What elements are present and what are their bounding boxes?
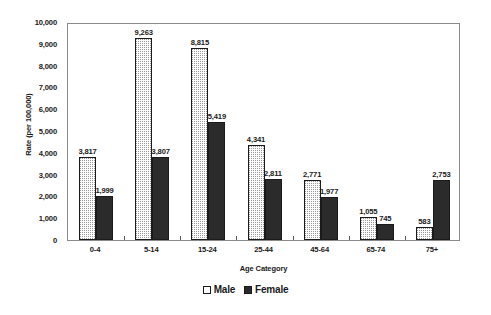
bar-value-label: 3,807 (144, 147, 178, 156)
y-axis-tick-label: 9,000 (2, 41, 57, 49)
bar-female-45-64 (321, 197, 338, 240)
bar-male-0-4 (79, 157, 96, 240)
bar-male-75+ (416, 227, 433, 240)
y-axis-tick-label: 5,000 (2, 128, 57, 136)
x-axis-tick-label: 75+ (404, 245, 460, 254)
y-axis-tick-label: 2,000 (2, 193, 57, 201)
y-axis-tick-label: 4,000 (2, 150, 57, 158)
bar-female-75+ (433, 180, 450, 240)
y-axis-tick-label: 6,000 (2, 106, 57, 114)
filled-square-icon (244, 286, 252, 294)
bar-value-label: 8,815 (183, 38, 217, 47)
bar-value-label: 2,771 (295, 170, 329, 179)
bar-value-label: 2,811 (256, 169, 290, 178)
bar-value-label: 1,999 (88, 186, 122, 195)
x-axis-tick-mark (236, 236, 237, 240)
legend-item-female: Female (244, 285, 288, 295)
y-axis-tick-label: 3,000 (2, 172, 57, 180)
bar-female-65-74 (377, 224, 394, 240)
y-axis-tick-labels: 01,0002,0003,0004,0005,0006,0007,0008,00… (4, 23, 62, 241)
x-axis-tick-label: 0-4 (67, 245, 123, 254)
x-axis-tick-mark (124, 236, 125, 240)
bar-value-label: 2,753 (424, 170, 458, 179)
bar-male-15-24 (191, 48, 208, 240)
bar-female-25-44 (265, 179, 282, 240)
y-axis-tick-label: 0 (2, 237, 57, 245)
y-axis-tick-label: 8,000 (2, 63, 57, 71)
bar-male-5-14 (135, 38, 152, 240)
bar-chart: Rate (per 100,000) 01,0002,0003,0004,000… (0, 0, 491, 315)
legend-label: Male (214, 285, 235, 295)
bar-value-label: 9,263 (127, 28, 161, 37)
x-axis-tick-label: 15-24 (179, 245, 235, 254)
y-axis-tick-label: 7,000 (2, 84, 57, 92)
x-axis-tick-mark (349, 236, 350, 240)
x-axis-tick-mark (405, 236, 406, 240)
x-axis-tick-label: 45-64 (292, 245, 348, 254)
bar-value-label: 1,977 (312, 187, 346, 196)
y-axis-tick-label: 10,000 (2, 19, 57, 27)
plot-inner: 3,8171,9999,2633,8078,8155,4194,3412,811… (68, 24, 459, 240)
plot-area: 3,8171,9999,2633,8078,8155,4194,3412,811… (67, 23, 460, 241)
bar-female-15-24 (208, 122, 225, 240)
bar-female-5-14 (152, 157, 169, 240)
y-axis-tick-label: 1,000 (2, 215, 57, 223)
legend-item-male: Male (203, 285, 235, 295)
x-axis-tick-mark (293, 236, 294, 240)
x-axis-tick-label: 5-14 (123, 245, 179, 254)
x-axis-tick-labels: 0-45-1415-2425-4445-6465-7475+ (67, 245, 460, 259)
x-axis-tick-label: 25-44 (235, 245, 291, 254)
bar-value-label: 745 (368, 214, 402, 223)
bar-male-25-44 (248, 145, 265, 240)
legend-label: Female (255, 285, 288, 295)
bar-value-label: 4,341 (239, 135, 273, 144)
bar-value-label: 5,419 (200, 112, 234, 121)
x-axis-title: Age Category (67, 264, 460, 273)
open-square-icon (203, 286, 211, 294)
chart-legend: MaleFemale (0, 285, 491, 295)
x-axis-tick-mark (180, 236, 181, 240)
bar-female-0-4 (96, 196, 113, 240)
x-axis-tick-label: 65-74 (348, 245, 404, 254)
bar-value-label: 3,817 (71, 147, 105, 156)
